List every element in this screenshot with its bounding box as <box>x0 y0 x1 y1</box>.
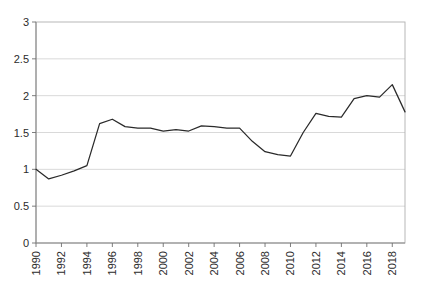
y-tick-label: 2 <box>23 90 29 102</box>
x-tick-label: 2004 <box>208 251 220 275</box>
x-tick-label: 2014 <box>335 251 347 275</box>
y-tick-label: 1 <box>23 163 29 175</box>
x-tick-label: 2016 <box>361 251 373 275</box>
chart-canvas: 00.511.522.53 19901992199419961998200020… <box>0 0 427 287</box>
x-tick-label: 2018 <box>386 251 398 275</box>
x-tick-label: 1994 <box>81 251 93 275</box>
x-tick-label: 2008 <box>259 251 271 275</box>
y-tick-label: 3 <box>23 16 29 28</box>
x-tick-label: 2012 <box>310 251 322 275</box>
y-tick-label: 2.5 <box>14 53 29 65</box>
x-tick-label: 1996 <box>106 251 118 275</box>
y-tick-label: 0.5 <box>14 200 29 212</box>
x-tick-label: 2000 <box>157 251 169 275</box>
x-tick-label: 2006 <box>234 251 246 275</box>
y-tick-label: 1.5 <box>14 127 29 139</box>
y-axis <box>32 22 36 243</box>
x-tick-labels: 1990199219941996199820002002200420062008… <box>30 251 398 275</box>
line-chart: 00.511.522.53 19901992199419961998200020… <box>0 0 427 287</box>
x-tick-label: 1998 <box>132 251 144 275</box>
y-tick-labels: 00.511.522.53 <box>14 16 29 249</box>
x-tick-label: 2010 <box>284 251 296 275</box>
x-tick-label: 1992 <box>55 251 67 275</box>
x-tick-label: 2002 <box>183 251 195 275</box>
x-tick-label: 1990 <box>30 251 42 275</box>
y-tick-label: 0 <box>23 237 29 249</box>
x-axis <box>36 243 405 247</box>
